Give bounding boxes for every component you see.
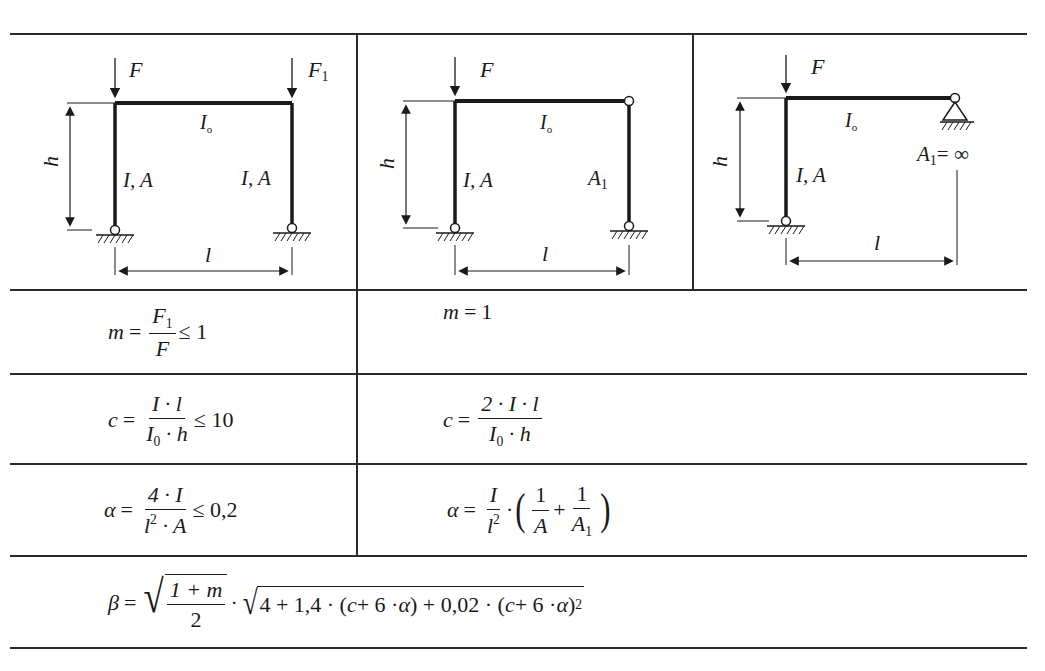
fraction: I · l I0 · h [143,391,191,450]
symbol-c: c [443,407,453,433]
svg-text:F: F [479,57,494,82]
radicand: 4 + 1,4 · (c + 6 · α) + 0,02 · (c + 6 · … [257,586,584,620]
row-rule-4 [10,555,1027,557]
frame-roller-support-icon: F Io I, A A1= ∞ h l [694,35,1028,289]
equals-sign: = [123,407,135,433]
formula-m-col1: m = F1 F ≤ 1 [108,293,207,371]
svg-text:h: h [374,158,399,169]
formula-c-col2: c = 2 · I · l I0 · h [443,378,545,462]
svg-text:I, A: I, A [795,163,826,187]
svg-text:l: l [205,242,211,267]
frame-diagram-2: F Io I, A A1 h l [358,35,692,289]
svg-text:F: F [810,54,825,79]
svg-text:A1: A1 [586,166,608,192]
svg-text:l: l [874,230,880,255]
condition: ≤ 10 [194,407,234,433]
fraction: 1 A1 [569,481,595,540]
svg-text:F1: F1 [307,57,328,84]
fraction: 4 · I l2 · A [141,482,189,538]
svg-text:F: F [128,57,143,82]
equals-sign: = [124,590,136,616]
row-rule-1 [10,289,1027,291]
fraction: 1 + m 2 [167,577,226,633]
plus-sign: + [553,497,565,523]
fraction: 2 · I · l I0 · h [478,391,541,450]
equals-sign: = [129,319,141,345]
two-hinged-frame-icon: F F1 Io I, A I, A h l [12,35,356,289]
svg-text:l: l [542,241,548,266]
symbol-m: m [443,299,459,325]
svg-text:h: h [38,156,63,167]
square-root: √ 4 + 1,4 · (c + 6 · α) + 0,02 · (c + 6 … [241,586,584,620]
equals-sign: = [464,299,476,325]
symbol-m: m [108,319,124,345]
formula-alpha-col1: α = 4 · I l2 · A ≤ 0,2 [104,467,238,553]
condition: ≤ 1 [179,319,208,345]
value: 1 [481,299,492,325]
symbol-c: c [108,407,118,433]
equals-sign: = [458,407,470,433]
svg-text:I, A: I, A [462,168,493,192]
svg-text:Io: Io [844,109,858,133]
symbol-beta: β [108,590,119,616]
formula-alpha-col2: α = I l2 · ( 1 A + 1 A1 ) [447,467,613,553]
condition: ≤ 0,2 [192,497,237,523]
formula-c-col1: c = I · l I0 · h ≤ 10 [108,378,233,462]
right-paren: ) [600,488,610,532]
row-rule-2 [10,373,1027,375]
radical-icon: √ [144,574,164,633]
frame-diagram-1: F F1 Io I, A I, A h l [12,35,356,289]
symbol-alpha: α [447,497,459,523]
svg-text:Io: Io [199,111,213,135]
fraction: I l2 [484,482,503,538]
svg-text:I, A: I, A [122,168,153,192]
formula-beta: β = √ 1 + m 2 · √ 4 + 1,4 · (c + 6 · α) … [108,560,584,646]
square-root: √ 1 + m 2 [141,574,227,633]
equals-sign: = [464,497,476,523]
svg-text:Io: Io [539,111,553,135]
fraction: F1 F [149,303,175,362]
svg-text:A1= ∞: A1= ∞ [915,142,969,168]
symbol-alpha: α [104,497,116,523]
table-bottom-rule [10,647,1027,649]
formula-m-col2: m = 1 [443,297,492,327]
frame-diagram-3: F Io I, A A1= ∞ h l [694,35,1028,289]
equals-sign: = [121,497,133,523]
left-paren: ( [515,488,525,532]
radical-icon: √ [243,586,258,620]
multiply-dot: · [230,590,237,616]
svg-text:I, A: I, A [240,166,271,190]
frame-pinned-column-icon: F Io I, A A1 h l [358,35,692,289]
row-rule-3 [10,463,1027,465]
svg-text:h: h [707,156,732,167]
multiply-dot: · [506,497,513,523]
fraction: 1 A [531,482,550,538]
